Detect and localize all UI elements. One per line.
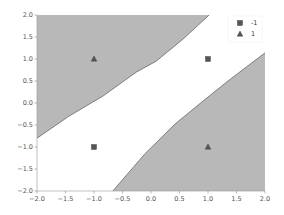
legend: -11 (228, 16, 262, 42)
y-tick-label: 0.5 (23, 77, 33, 85)
y-tick-label: −2.0 (17, 187, 33, 195)
x-tick-label: −2.0 (29, 195, 45, 203)
y-tick-label: 0.0 (23, 99, 33, 107)
square-marker-icon (206, 57, 211, 62)
x-tick-label: 0.5 (174, 195, 184, 203)
legend-label: 1 (251, 30, 255, 38)
x-tick-label: −1.0 (86, 195, 102, 203)
x-tick-label: −1.5 (58, 195, 74, 203)
legend-square-icon (238, 21, 243, 26)
x-tick-label: 1.5 (231, 195, 241, 203)
legend-label: -1 (251, 19, 257, 27)
x-tick-label: 2.0 (260, 195, 270, 203)
y-tick-label: −0.5 (17, 121, 33, 129)
y-tick-label: 1.0 (23, 55, 33, 63)
decision-boundary-chart: −2.0−1.5−1.0−0.50.00.51.01.52.02.01.51.0… (0, 0, 284, 215)
square-marker-icon (92, 145, 97, 150)
x-tick-label: 0.0 (146, 195, 156, 203)
y-tick-label: 2.0 (23, 11, 33, 19)
x-tick-label: 1.0 (203, 195, 213, 203)
y-tick-label: 1.5 (23, 33, 33, 41)
region-lower-right (113, 53, 265, 191)
y-tick-label: −1.5 (17, 165, 33, 173)
x-tick-label: −0.5 (115, 195, 131, 203)
y-tick-label: −1.0 (17, 143, 33, 151)
